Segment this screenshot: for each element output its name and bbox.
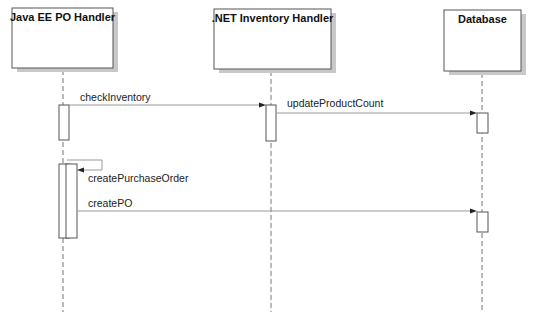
participant-title: Database bbox=[458, 13, 507, 25]
message-label: createPO bbox=[88, 197, 132, 209]
message-createpurchaseorder[interactable]: createPurchaseOrder bbox=[67, 160, 189, 184]
sequence-diagram: Java EE PO Handler .NET Inventory Handle… bbox=[0, 0, 536, 328]
arrowhead-icon bbox=[470, 111, 477, 116]
activation-javaee-nested bbox=[66, 164, 77, 238]
participant-db[interactable]: Database bbox=[444, 10, 526, 75]
participant-dotnet[interactable]: .NET Inventory Handler bbox=[212, 9, 336, 73]
activation-dotnet-1 bbox=[266, 105, 276, 141]
activation-javaee-1 bbox=[59, 105, 69, 140]
arrowhead-icon bbox=[470, 209, 477, 214]
message-label: updateProductCount bbox=[287, 97, 383, 109]
participant-title: .NET Inventory Handler bbox=[212, 12, 334, 24]
message-updateproductcount[interactable]: updateProductCount bbox=[276, 97, 477, 116]
participant-javaee[interactable]: Java EE PO Handler bbox=[10, 8, 118, 72]
activation-db-2 bbox=[477, 212, 488, 232]
arrowhead-icon bbox=[77, 168, 84, 173]
message-label: checkInventory bbox=[80, 91, 151, 103]
arrowhead-icon bbox=[259, 103, 266, 108]
message-label: createPurchaseOrder bbox=[88, 172, 189, 184]
message-createpo[interactable]: createPO bbox=[77, 197, 477, 214]
activation-db-1 bbox=[477, 113, 488, 133]
message-checkinventory[interactable]: checkInventory bbox=[69, 91, 266, 108]
participant-title: Java EE PO Handler bbox=[10, 11, 116, 23]
